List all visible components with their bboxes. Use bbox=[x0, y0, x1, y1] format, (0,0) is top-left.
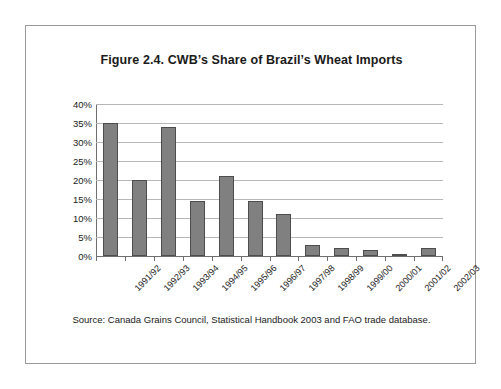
bar-rect bbox=[190, 201, 205, 256]
gridline bbox=[96, 218, 443, 219]
bar-rect bbox=[363, 250, 378, 256]
x-axis-tick-label: 1992/93 bbox=[162, 263, 192, 293]
y-axis-tick-label: 20% bbox=[52, 175, 92, 186]
x-axis-ticks bbox=[96, 257, 443, 262]
y-axis-tick-labels: 0%5%10%15%20%25%30%35%40% bbox=[48, 104, 92, 256]
x-axis-tick bbox=[442, 257, 443, 261]
y-axis-tick-label: 5% bbox=[52, 232, 92, 243]
x-axis-tick bbox=[327, 257, 328, 261]
y-axis-tick-label: 35% bbox=[52, 118, 92, 129]
x-axis-tick-label: 1993/94 bbox=[191, 263, 221, 293]
bar-1998-99 bbox=[305, 104, 320, 256]
x-axis-tick-label: 1995/96 bbox=[249, 263, 279, 293]
x-axis-tick bbox=[154, 257, 155, 261]
plot-area bbox=[96, 104, 443, 256]
y-axis-tick-label: 10% bbox=[52, 213, 92, 224]
bar-rect bbox=[103, 123, 118, 256]
x-axis-tick bbox=[212, 257, 213, 261]
x-axis-tick-label: 2000/01 bbox=[393, 263, 423, 293]
bar-rect bbox=[248, 201, 263, 256]
x-axis-tick-labels: 1991/921992/931993/941994/951995/961996/… bbox=[96, 263, 443, 319]
gridline bbox=[96, 104, 443, 105]
bar-1997-98 bbox=[276, 104, 291, 256]
x-axis-tick-label: 1999/00 bbox=[364, 263, 394, 293]
x-axis-tick bbox=[96, 257, 97, 261]
bar-rect bbox=[392, 254, 407, 257]
x-axis-tick-label: 1997/98 bbox=[307, 263, 337, 293]
y-axis-tick-label: 0% bbox=[52, 251, 92, 262]
x-axis-tick-label: 1994/95 bbox=[220, 263, 250, 293]
x-axis-tick bbox=[385, 257, 386, 261]
bar-rect bbox=[305, 245, 320, 256]
x-axis-tick bbox=[298, 257, 299, 261]
bar-1993-94 bbox=[161, 104, 176, 256]
x-axis-tick-label: 1991/92 bbox=[133, 263, 163, 293]
x-axis-tick-label: 1998/99 bbox=[335, 263, 365, 293]
bar-rect bbox=[161, 127, 176, 256]
bar-2001-02 bbox=[392, 104, 407, 256]
x-axis-tick-label: 2002/03 bbox=[451, 263, 481, 293]
x-axis-tick-label: 2001/02 bbox=[422, 263, 452, 293]
x-axis-tick-label: 1996/97 bbox=[278, 263, 308, 293]
bar-rect bbox=[421, 248, 436, 256]
page-title: Figure 2.4. CWB’s Share of Brazil’s Whea… bbox=[26, 53, 477, 67]
x-axis-tick bbox=[270, 257, 271, 261]
gridline bbox=[96, 237, 443, 238]
bar-1995-96 bbox=[219, 104, 234, 256]
source-note: Source: Canada Grains Council, Statistic… bbox=[26, 314, 477, 325]
bar-rect bbox=[334, 248, 349, 256]
x-axis-tick bbox=[414, 257, 415, 261]
gridline bbox=[96, 180, 443, 181]
y-axis-tick-label: 40% bbox=[52, 99, 92, 110]
bar-rect bbox=[132, 180, 147, 256]
x-axis-tick bbox=[183, 257, 184, 261]
bar-1991-92 bbox=[103, 104, 118, 256]
bar-1994-95 bbox=[190, 104, 205, 256]
bar-2002-03 bbox=[421, 104, 436, 256]
gridline bbox=[96, 142, 443, 143]
x-axis-tick bbox=[356, 257, 357, 261]
y-axis-tick-label: 15% bbox=[52, 194, 92, 205]
x-axis-tick bbox=[125, 257, 126, 261]
y-axis-tick-label: 25% bbox=[52, 156, 92, 167]
figure-frame: Figure 2.4. CWB’s Share of Brazil’s Whea… bbox=[25, 25, 476, 364]
y-axis-tick-label: 30% bbox=[52, 137, 92, 148]
x-axis-tick bbox=[241, 257, 242, 261]
bar-1996-97 bbox=[248, 104, 263, 256]
gridline bbox=[96, 161, 443, 162]
gridline bbox=[96, 199, 443, 200]
bar-2000-01 bbox=[363, 104, 378, 256]
bar-rect bbox=[276, 214, 291, 256]
bar-1999-00 bbox=[334, 104, 349, 256]
bar-rect bbox=[219, 176, 234, 256]
bar-1992-93 bbox=[132, 104, 147, 256]
gridline bbox=[96, 123, 443, 124]
